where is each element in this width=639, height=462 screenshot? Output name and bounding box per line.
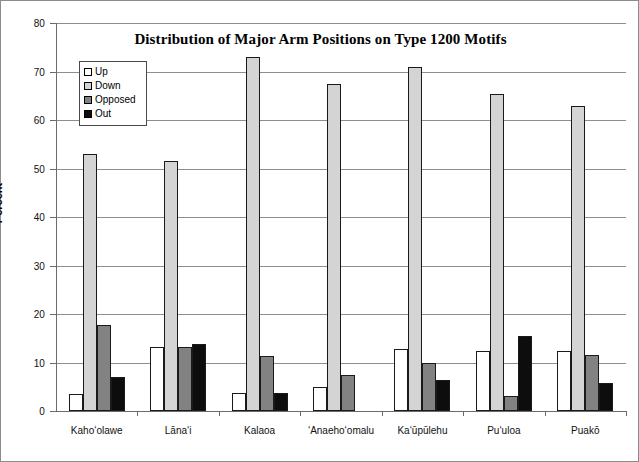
y-tick-mark [50, 363, 56, 364]
y-axis-line [56, 23, 57, 412]
x-category-label: ʻAnaehoʻomalu [308, 425, 374, 436]
legend-swatch-icon [84, 68, 92, 76]
x-tick-mark [137, 411, 138, 416]
x-tick-mark [545, 411, 546, 416]
y-tick-mark [50, 72, 56, 73]
y-tick-mark [50, 23, 56, 24]
x-category-label: Kaʻūpūlehu [397, 425, 447, 436]
y-tick-label: 40 [1, 212, 45, 223]
bar-out [436, 380, 450, 411]
bar-opposed [260, 356, 274, 411]
y-tick-label: 80 [1, 18, 45, 29]
legend-item[interactable]: Opposed [84, 93, 142, 107]
y-tick-mark [50, 169, 56, 170]
bar-down [246, 57, 260, 411]
y-tick-mark [50, 411, 56, 412]
legend-label: Up [95, 67, 108, 77]
x-tick-mark [463, 411, 464, 416]
bar-out [111, 377, 125, 411]
x-category-label: Puʻuloa [487, 425, 520, 436]
bar-down [327, 84, 341, 411]
bar-down [490, 94, 504, 411]
legend-item[interactable]: Out [84, 107, 142, 121]
bar-group [137, 23, 218, 411]
legend-label: Down [95, 81, 121, 91]
bar-down [164, 161, 178, 411]
bar-group [463, 23, 544, 411]
bar-opposed [504, 396, 518, 411]
y-tick-mark [50, 217, 56, 218]
legend-swatch-icon [84, 82, 92, 90]
bar-up [394, 349, 408, 411]
legend-swatch-icon [84, 110, 92, 118]
x-axis-line [56, 411, 626, 412]
bar-out [192, 344, 206, 411]
bar-up [313, 387, 327, 411]
bar-up [69, 394, 83, 411]
bar-down [83, 154, 97, 411]
bar-up [557, 351, 571, 411]
y-tick-label: 20 [1, 309, 45, 320]
y-tick-label: 0 [1, 406, 45, 417]
legend-item[interactable]: Down [84, 79, 142, 93]
x-tick-mark [382, 411, 383, 416]
y-tick-mark [50, 266, 56, 267]
y-tick-mark [50, 120, 56, 121]
x-category-label: Kahoʻolawe [71, 425, 123, 436]
bar-out [599, 383, 613, 411]
bar-opposed [341, 375, 355, 411]
x-category-label: Kalaoa [244, 425, 275, 436]
bar-down [408, 67, 422, 411]
bar-out [274, 393, 288, 411]
y-tick-label: 30 [1, 260, 45, 271]
bar-opposed [422, 363, 436, 411]
y-tick-label: 50 [1, 163, 45, 174]
legend-item[interactable]: Up [84, 65, 142, 79]
y-tick-label: 10 [1, 357, 45, 368]
chart-figure: Distribution of Major Arm Positions on T… [0, 0, 639, 462]
bar-opposed [178, 347, 192, 411]
x-tick-mark [300, 411, 301, 416]
x-category-label: Puakō [571, 425, 599, 436]
bar-opposed [97, 325, 111, 411]
bar-group [545, 23, 626, 411]
bar-opposed [585, 355, 599, 411]
bar-up [232, 393, 246, 411]
legend-swatch-icon [84, 96, 92, 104]
legend-label: Out [95, 109, 111, 119]
chart-legend: UpDownOpposedOut [79, 61, 147, 126]
bar-group [382, 23, 463, 411]
y-tick-mark [50, 314, 56, 315]
bar-group [219, 23, 300, 411]
x-category-label: Lānaʻi [165, 425, 192, 436]
bar-down [571, 106, 585, 411]
bar-up [150, 347, 164, 412]
legend-label: Opposed [95, 95, 136, 105]
x-tick-mark [626, 411, 627, 416]
bar-out [518, 336, 532, 411]
bar-group [300, 23, 381, 411]
x-tick-mark [219, 411, 220, 416]
y-tick-label: 70 [1, 66, 45, 77]
y-tick-label: 60 [1, 115, 45, 126]
bar-up [476, 351, 490, 411]
